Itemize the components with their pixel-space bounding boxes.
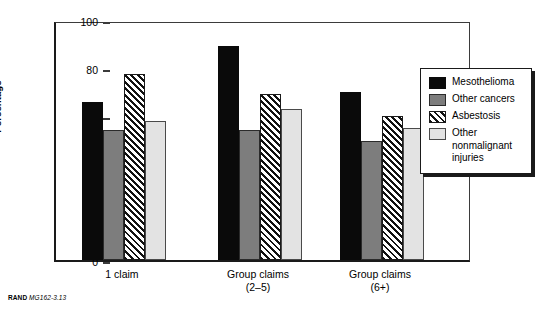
source-caption: RAND MG162-3.13 [8,294,66,301]
bar-group [82,20,166,260]
source-org: RAND [8,294,27,301]
legend-swatch-other-nonmalignant [429,128,446,140]
y-tick-mark [103,262,110,264]
bar-asbestosis[interactable] [382,116,403,260]
bar-other-cancers[interactable] [103,130,124,260]
legend-label: Other cancers [452,93,515,106]
legend-item: Other cancers [429,93,524,106]
bar-other-nonmalignant[interactable] [281,109,302,260]
legend: Mesothelioma Other cancers Asbestosis Ot… [420,68,532,174]
bar-asbestosis[interactable] [260,94,281,260]
figure-id: MG162-3.13 [29,294,66,301]
bar-other-cancers[interactable] [361,141,382,260]
bar-group [340,20,424,260]
legend-item: Asbestosis [429,110,524,123]
bar-mesothelioma[interactable] [218,46,239,260]
legend-label: Asbestosis [452,110,500,123]
bar-other-cancers[interactable] [239,130,260,260]
legend-label: Other nonmalignant injuries [452,127,512,165]
legend-swatch-other-cancers [429,94,446,106]
x-axis-label: Group claims (6+) [320,268,440,294]
legend-item: Mesothelioma [429,76,524,89]
plot-area: 100 80 60 40 20 0 [54,22,470,262]
x-axis-label: Group claims (2–5) [198,268,318,294]
x-axis-label: 1 claim [62,268,182,281]
legend-label: Mesothelioma [452,76,514,89]
legend-swatch-mesothelioma [429,77,446,89]
bar-asbestosis[interactable] [124,74,145,260]
legend-swatch-asbestosis [429,111,446,123]
bar-group [218,20,302,260]
bar-other-nonmalignant[interactable] [145,121,166,260]
bar-mesothelioma[interactable] [340,92,361,260]
y-axis-title: Percentage [0,47,3,167]
legend-item: Other nonmalignant injuries [429,127,524,165]
figure-container: Percentage 100 80 60 40 20 0 [0,0,542,315]
bar-mesothelioma[interactable] [82,102,103,260]
